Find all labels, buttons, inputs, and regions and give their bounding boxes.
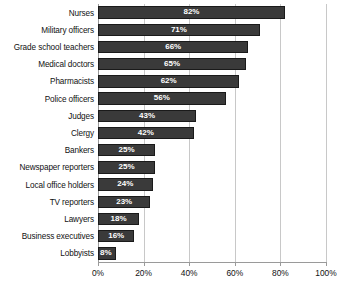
category-label: Judges [0, 111, 94, 120]
bar-value-label: 65% [98, 58, 246, 70]
bar-value-label: 62% [98, 75, 239, 87]
bar-track: 66% [98, 38, 326, 55]
x-tick-label: 0% [92, 268, 104, 278]
bar-row: Lawyers18% [0, 210, 341, 227]
bar-track: 62% [98, 73, 326, 90]
category-label: Business executives [0, 232, 94, 241]
bar-value-label: 25% [98, 144, 155, 156]
bar-row: TV reporters23% [0, 193, 341, 210]
bar-row: Medical doctors65% [0, 56, 341, 73]
bar-value-label: 82% [98, 6, 285, 18]
bar-value-label: 18% [98, 213, 139, 225]
category-label: Grade school teachers [0, 42, 94, 51]
bar-value-label: 25% [98, 161, 155, 173]
bar-row: Military officers71% [0, 21, 341, 38]
bar-value-label: 43% [98, 110, 196, 122]
category-label: Lobbyists [0, 249, 94, 258]
bar-value-label: 23% [98, 196, 150, 208]
bar-value-label: 56% [98, 92, 226, 104]
category-label: Clergy [0, 128, 94, 137]
x-tick-label: 40% [181, 268, 198, 278]
bar-row: Grade school teachers66% [0, 38, 341, 55]
bar-track: 82% [98, 4, 326, 21]
bar-chart: Nurses82%Military officers71%Grade schoo… [0, 0, 341, 286]
bar-value-label: 71% [98, 24, 260, 36]
bar-track: 56% [98, 90, 326, 107]
bar-row: Newspaper reporters25% [0, 159, 341, 176]
bar-rows: Nurses82%Military officers71%Grade schoo… [0, 4, 341, 262]
bar-row: Local office holders24% [0, 176, 341, 193]
bar-track: 42% [98, 124, 326, 141]
x-tick-mark [235, 262, 236, 266]
bar-track: 71% [98, 21, 326, 38]
category-label: Police officers [0, 94, 94, 103]
bar-row: Nurses82% [0, 4, 341, 21]
category-label: Medical doctors [0, 60, 94, 69]
x-tick-label: 100% [315, 268, 336, 278]
bar-track: 23% [98, 193, 326, 210]
category-label: Military officers [0, 25, 94, 34]
bar-track: 24% [98, 176, 326, 193]
category-label: Pharmacists [0, 77, 94, 86]
x-tick-mark [280, 262, 281, 266]
bar-row: Business executives16% [0, 228, 341, 245]
bar-track: 8% [98, 245, 326, 262]
bar-row: Police officers56% [0, 90, 341, 107]
x-tick-label: 80% [272, 268, 289, 278]
x-tick-mark [189, 262, 190, 266]
category-label: Lawyers [0, 214, 94, 223]
bar-value-label: 8% [98, 247, 116, 259]
category-label: TV reporters [0, 197, 94, 206]
x-tick-mark [98, 262, 99, 266]
x-tick-mark [144, 262, 145, 266]
bar-track: 65% [98, 56, 326, 73]
bar-track: 25% [98, 142, 326, 159]
bar-row: Judges43% [0, 107, 341, 124]
category-label: Newspaper reporters [0, 163, 94, 172]
category-label: Nurses [0, 8, 94, 17]
x-tick-label: 60% [226, 268, 243, 278]
x-tick-label: 20% [135, 268, 152, 278]
bar-track: 16% [98, 228, 326, 245]
bar-row: Bankers25% [0, 142, 341, 159]
bar-value-label: 24% [98, 178, 153, 190]
category-label: Local office holders [0, 180, 94, 189]
x-axis: 0%20%40%60%80%100% [0, 262, 341, 286]
category-label: Bankers [0, 146, 94, 155]
x-tick-mark [326, 262, 327, 266]
bar-row: Clergy42% [0, 124, 341, 141]
bar-value-label: 42% [98, 127, 194, 139]
bar-track: 25% [98, 159, 326, 176]
bar-track: 18% [98, 210, 326, 227]
bar-value-label: 66% [98, 41, 248, 53]
bar-track: 43% [98, 107, 326, 124]
bar-value-label: 16% [98, 230, 134, 242]
bar-row: Lobbyists8% [0, 245, 341, 262]
bar-row: Pharmacists62% [0, 73, 341, 90]
